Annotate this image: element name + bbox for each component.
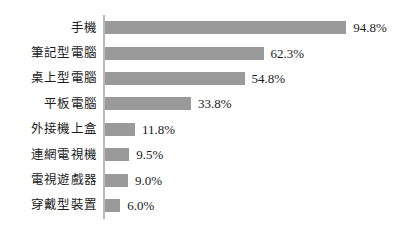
bar-and-value: 62.3%	[105, 40, 304, 65]
category-label: 筆記型電腦	[1, 46, 97, 60]
category-label: 桌上型電腦	[1, 71, 97, 85]
bar-value-label: 33.8%	[198, 97, 232, 110]
bar-and-value: 54.8%	[105, 66, 285, 91]
category-label: 電視遊戲器	[1, 173, 97, 187]
bar-and-value: 33.8%	[105, 91, 232, 116]
category-label: 外接機上盒	[1, 122, 97, 136]
bar	[105, 72, 245, 85]
bar-row: 外接機上盒11.8%	[0, 117, 401, 142]
bar	[105, 174, 128, 187]
bar	[105, 97, 191, 110]
bar-and-value: 11.8%	[105, 117, 175, 142]
category-label: 平板電腦	[1, 97, 97, 111]
category-label: 連網電視機	[1, 148, 97, 162]
bar-value-label: 9.0%	[135, 174, 162, 187]
bar-and-value: 6.0%	[105, 193, 154, 218]
bar-and-value: 9.0%	[105, 167, 162, 192]
bar-rows: 手機94.8%筆記型電腦62.3%桌上型電腦54.8%平板電腦33.8%外接機上…	[0, 15, 401, 218]
bar-value-label: 54.8%	[252, 72, 286, 85]
bar-row: 桌上型電腦54.8%	[0, 66, 401, 91]
bar-and-value: 9.5%	[105, 142, 163, 167]
bar	[105, 47, 264, 60]
bar-value-label: 94.8%	[353, 21, 387, 34]
bar-value-label: 11.8%	[142, 123, 175, 136]
bar-row: 連網電視機9.5%	[0, 142, 401, 167]
bar-value-label: 9.5%	[136, 148, 163, 161]
bar	[105, 199, 120, 212]
plot-area: 手機94.8%筆記型電腦62.3%桌上型電腦54.8%平板電腦33.8%外接機上…	[0, 0, 401, 231]
bar	[105, 148, 129, 161]
bar-and-value: 94.8%	[105, 15, 387, 40]
bar-chart: 手機94.8%筆記型電腦62.3%桌上型電腦54.8%平板電腦33.8%外接機上…	[0, 0, 401, 231]
bar-row: 平板電腦33.8%	[0, 91, 401, 116]
bar-value-label: 6.0%	[127, 199, 154, 212]
bar-row: 穿戴型裝置6.0%	[0, 193, 401, 218]
bar-row: 電視遊戲器9.0%	[0, 167, 401, 192]
bar-row: 手機94.8%	[0, 15, 401, 40]
bar	[105, 123, 135, 136]
category-label: 手機	[1, 21, 97, 35]
category-label: 穿戴型裝置	[1, 198, 97, 212]
bar-row: 筆記型電腦62.3%	[0, 40, 401, 65]
bar-value-label: 62.3%	[271, 47, 305, 60]
bar	[105, 21, 346, 34]
